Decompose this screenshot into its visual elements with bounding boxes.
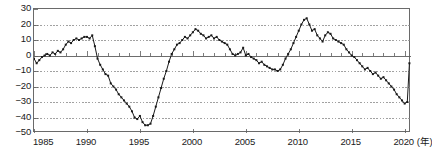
chart-svg bbox=[34, 9, 411, 133]
data-point-marker bbox=[237, 53, 239, 55]
data-point-marker bbox=[356, 59, 358, 61]
data-point-marker bbox=[404, 103, 406, 105]
data-point-marker bbox=[65, 44, 67, 46]
data-point-marker bbox=[168, 61, 170, 63]
data-point-marker bbox=[131, 110, 133, 112]
data-point-marker bbox=[295, 36, 297, 38]
data-point-marker bbox=[290, 48, 292, 50]
data-point-marker bbox=[142, 121, 144, 123]
data-point-marker bbox=[364, 68, 366, 70]
data-point-marker bbox=[285, 58, 287, 60]
y-tick-label: −10 bbox=[0, 65, 31, 75]
data-point-marker bbox=[269, 67, 271, 69]
data-point-marker bbox=[54, 53, 56, 55]
data-point-marker bbox=[213, 37, 215, 39]
data-point-marker bbox=[382, 76, 384, 78]
data-point-marker bbox=[86, 36, 88, 38]
data-point-marker bbox=[240, 51, 242, 53]
data-point-marker bbox=[160, 87, 162, 89]
data-point-marker bbox=[393, 89, 395, 91]
data-point-marker bbox=[197, 30, 199, 32]
data-point-marker bbox=[369, 70, 371, 72]
data-point-marker bbox=[184, 36, 186, 38]
data-point-marker bbox=[332, 37, 334, 39]
data-point-marker bbox=[277, 70, 279, 72]
data-point-marker bbox=[359, 62, 361, 64]
data-point-marker bbox=[351, 55, 353, 57]
data-point-marker bbox=[308, 24, 310, 26]
data-point-marker bbox=[282, 64, 284, 66]
data-point-marker bbox=[380, 78, 382, 80]
data-point-marker bbox=[377, 75, 379, 77]
data-point-marker bbox=[316, 34, 318, 36]
data-point-marker bbox=[279, 68, 281, 70]
data-point-marker bbox=[73, 39, 75, 41]
data-point-marker bbox=[250, 56, 252, 58]
data-point-marker bbox=[134, 117, 136, 119]
data-point-marker bbox=[306, 17, 308, 19]
data-point-marker bbox=[123, 99, 125, 101]
data-point-marker bbox=[49, 55, 51, 57]
data-point-marker bbox=[242, 47, 244, 49]
data-point-marker bbox=[189, 34, 191, 36]
data-point-marker bbox=[274, 68, 276, 70]
data-point-marker bbox=[89, 37, 91, 39]
y-tick-label: −20 bbox=[0, 81, 31, 91]
data-point-marker bbox=[221, 41, 223, 43]
data-point-marker bbox=[181, 39, 183, 41]
data-point-marker bbox=[171, 53, 173, 55]
data-point-marker bbox=[337, 41, 339, 43]
data-point-marker bbox=[287, 53, 289, 55]
data-point-marker bbox=[372, 73, 374, 75]
data-point-marker bbox=[102, 68, 104, 70]
data-point-marker bbox=[57, 50, 59, 52]
annotation-line-final-spike bbox=[407, 63, 409, 102]
y-tick-label: 10 bbox=[0, 34, 31, 44]
data-point-marker bbox=[41, 56, 43, 58]
data-point-marker bbox=[300, 24, 302, 26]
data-point-marker bbox=[155, 106, 157, 108]
data-point-marker bbox=[187, 37, 189, 39]
data-point-marker bbox=[375, 72, 377, 74]
y-tick-label: 0 bbox=[0, 50, 31, 60]
data-point-marker bbox=[255, 59, 257, 61]
data-point-marker bbox=[258, 62, 260, 64]
data-point-marker bbox=[208, 36, 210, 38]
data-point-marker bbox=[179, 42, 181, 44]
data-point-marker bbox=[99, 64, 101, 66]
data-point-marker bbox=[322, 41, 324, 43]
data-point-marker bbox=[340, 42, 342, 44]
data-point-marker bbox=[147, 124, 149, 126]
data-point-marker bbox=[128, 106, 130, 108]
data-point-marker bbox=[229, 48, 231, 50]
data-point-marker bbox=[115, 89, 117, 91]
data-point-marker bbox=[353, 56, 355, 58]
data-point-marker bbox=[94, 45, 96, 47]
x-axis-unit-label: (年) bbox=[417, 136, 432, 147]
y-axis-ticks bbox=[34, 10, 38, 134]
data-point-marker bbox=[292, 42, 294, 44]
data-point-marker bbox=[396, 93, 398, 95]
data-point-marker bbox=[38, 59, 40, 61]
data-point-marker bbox=[385, 79, 387, 81]
data-point-marker bbox=[46, 53, 48, 55]
data-point-marker bbox=[70, 42, 72, 44]
data-point-marker bbox=[327, 31, 329, 33]
x-tick-label: 1990 bbox=[76, 136, 96, 147]
data-point-marker bbox=[390, 86, 392, 88]
data-point-marker bbox=[245, 55, 247, 57]
data-point-marker bbox=[44, 55, 46, 57]
data-point-marker bbox=[107, 75, 109, 77]
data-point-marker bbox=[152, 115, 154, 117]
x-tick-label: 1995 bbox=[129, 136, 149, 147]
data-point-marker bbox=[247, 53, 249, 55]
data-point-marker bbox=[319, 37, 321, 39]
x-tick-label: 1985 bbox=[33, 136, 53, 147]
data-point-marker bbox=[52, 51, 54, 53]
data-point-marker bbox=[97, 58, 99, 60]
data-point-marker bbox=[120, 96, 122, 98]
data-point-marker bbox=[157, 96, 159, 98]
data-point-marker bbox=[401, 99, 403, 101]
data-point-marker bbox=[218, 39, 220, 41]
